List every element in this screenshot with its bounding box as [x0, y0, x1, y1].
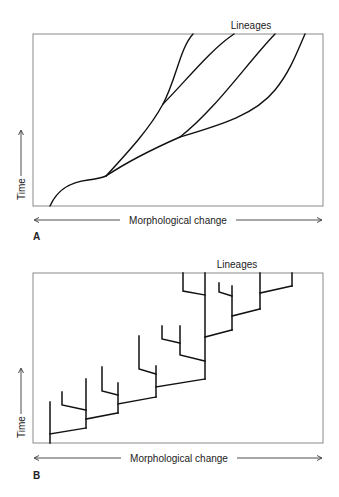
panel-b: Lineages — [16, 259, 323, 481]
panel-a-lineage-1 — [106, 34, 193, 176]
panel-b-step-5 — [205, 330, 232, 337]
panel-a: Lineages Time Morphological change A — [16, 20, 323, 242]
panel-b-time-axis: Time — [16, 368, 27, 438]
panel-b-side-2 — [102, 367, 118, 395]
panel-b-side-4b — [183, 273, 205, 295]
panel-b-time-label: Time — [16, 416, 27, 438]
panel-b-morph-label: Morphological change — [130, 453, 228, 464]
panel-b-side-5 — [219, 283, 232, 296]
panel-b-lineages-label: Lineages — [217, 259, 258, 270]
panel-a-lineage-4 — [180, 34, 305, 137]
panel-b-frame — [33, 273, 323, 443]
panel-a-lineage-3 — [106, 34, 275, 176]
panel-b-step-7 — [260, 286, 292, 293]
panel-a-frame — [33, 34, 323, 206]
panel-a-time-axis: Time — [16, 130, 27, 200]
panel-a-morph-axis: Morphological change — [34, 215, 322, 226]
panel-b-step-2 — [86, 413, 118, 419]
figure-canvas: Lineages Time Morphological change A L — [0, 0, 339, 497]
panel-a-phylogeny — [50, 34, 305, 206]
panel-b-side-4a — [162, 326, 180, 343]
panel-a-morph-label: Morphological change — [129, 215, 227, 226]
panel-a-lineages-label: Lineages — [231, 20, 272, 31]
panel-b-side-4 — [180, 326, 205, 361]
panel-b-step-4 — [156, 379, 205, 387]
panel-b-side-1 — [62, 392, 86, 410]
panel-b-step-1 — [50, 428, 86, 434]
panel-b-step-6 — [232, 309, 260, 316]
panel-a-stem — [50, 176, 106, 206]
panel-b-side-3 — [139, 336, 156, 374]
panel-b-step-3 — [118, 397, 156, 404]
panel-a-letter: A — [33, 231, 40, 242]
panel-b-letter: B — [33, 470, 40, 481]
panel-a-time-label: Time — [16, 178, 27, 200]
panel-b-phylogeny — [50, 273, 292, 443]
panel-b-morph-axis: Morphological change — [34, 453, 322, 464]
